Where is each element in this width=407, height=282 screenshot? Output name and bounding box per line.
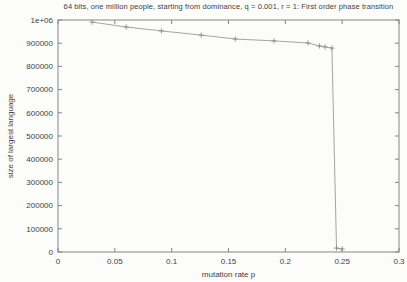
y-axis-label: size of largest language	[6, 93, 15, 178]
data-point-markers	[90, 19, 345, 251]
y-tick-label: 400000	[26, 155, 53, 164]
x-tick-label: 0.1	[166, 257, 178, 266]
y-tick-label: 700000	[26, 85, 53, 94]
chart-canvas: 00.050.10.150.20.250.3010000020000030000…	[0, 0, 407, 282]
x-tick-label: 0.3	[393, 257, 405, 266]
y-tick-label: 1e+06	[31, 16, 54, 25]
plot-figure: 64 bits, one million people, starting fr…	[0, 0, 407, 282]
plot-frame	[58, 20, 399, 252]
y-tick-label: 300000	[26, 178, 53, 187]
x-tick-label: 0.2	[280, 257, 292, 266]
x-tick-label: 0	[56, 257, 61, 266]
y-tick-label: 900000	[26, 39, 53, 48]
y-tick-label: 500000	[26, 132, 53, 141]
y-tick-label: 100000	[26, 225, 53, 234]
x-tick-label: 0.25	[334, 257, 350, 266]
x-tick-label: 0.05	[107, 257, 123, 266]
x-tick-label: 0.15	[221, 257, 237, 266]
y-tick-label: 0	[49, 248, 54, 257]
x-axis-label: mutation rate p	[202, 270, 256, 279]
data-line	[92, 22, 342, 249]
y-tick-label: 600000	[26, 109, 53, 118]
y-tick-label: 800000	[26, 62, 53, 71]
y-tick-label: 200000	[26, 201, 53, 210]
